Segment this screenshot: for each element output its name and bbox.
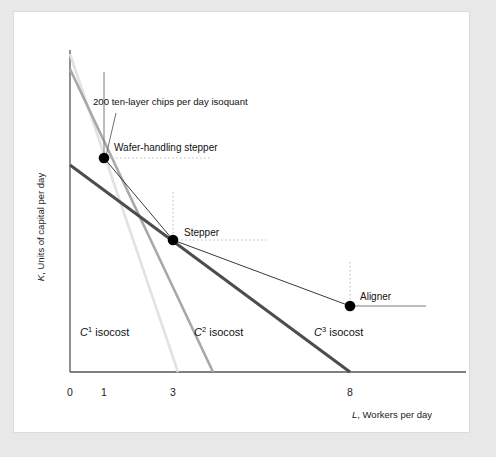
isoquant-line (104, 72, 426, 306)
y-axis-title: K, Units of capital per day (35, 173, 46, 282)
isocost-3-text: isocost (326, 326, 363, 338)
label-isocost-1: C1 isocost (80, 325, 129, 338)
figure-panel: K, Units of capital per day L, Workers p… (14, 12, 469, 432)
point-wafer-handling-stepper (99, 153, 110, 164)
isoquant-isocost-chart: K, Units of capital per day L, Workers p… (14, 12, 469, 432)
isocost-1-symbol: C (80, 326, 88, 338)
x-tick-labels: 0 1 3 8 (67, 386, 353, 398)
label-stepper: Stepper (184, 227, 220, 238)
label-isocost-3: C3 isocost (314, 325, 363, 338)
x-axis-title-rest: , Workers per day (357, 409, 432, 420)
isocost-2-symbol: C (194, 326, 202, 338)
x-tick-8: 8 (347, 386, 353, 398)
isocost-3-symbol: C (314, 326, 322, 338)
point-stepper (168, 235, 179, 246)
data-points (99, 153, 356, 312)
x-tick-0: 0 (67, 386, 73, 398)
label-isoquant: 200 ten-layer chips per day isoquant (93, 96, 248, 107)
label-wafer-handling-stepper: Wafer-handling stepper (114, 142, 218, 153)
isocost-2-text: isocost (206, 326, 243, 338)
x-tick-3: 3 (170, 386, 176, 398)
point-aligner (345, 301, 356, 312)
isocost-1-text: isocost (92, 326, 129, 338)
label-aligner: Aligner (360, 291, 392, 302)
isocost-labels: C1 isocost C2 isocost C3 isocost (80, 325, 363, 338)
x-axis-title: L, Workers per day (352, 409, 432, 420)
x-tick-1: 1 (101, 386, 107, 398)
isoquant-kinked-segment (104, 158, 350, 306)
label-isocost-2: C2 isocost (194, 325, 243, 338)
y-axis-title-rest: , Units of capital per day (35, 173, 46, 275)
isocost-3-line (70, 165, 350, 372)
guide-lines (104, 158, 350, 306)
